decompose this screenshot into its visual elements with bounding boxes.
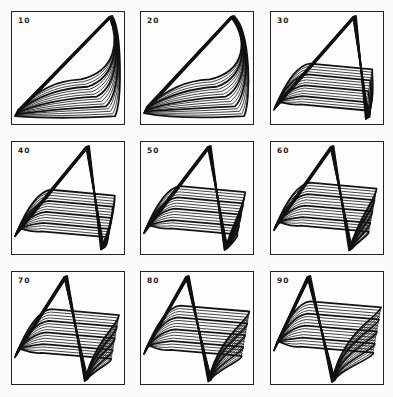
trajectory-bundle — [274, 146, 377, 251]
trajectory-plot — [271, 272, 383, 384]
trajectory-bundle — [15, 276, 119, 381]
phase-plot-panel: 20 — [140, 11, 254, 125]
panel-label: 20 — [147, 16, 159, 25]
trajectory-plot — [271, 142, 383, 254]
trajectory-curve — [18, 147, 108, 248]
panel-label: 60 — [277, 146, 289, 155]
trajectory-bundle — [144, 276, 249, 382]
panel-label: 50 — [147, 146, 159, 155]
panel-label: 70 — [18, 276, 30, 285]
phase-plot-panel: 70 — [11, 271, 125, 385]
trajectory-curve — [145, 276, 248, 381]
trajectory-bundle — [144, 146, 245, 250]
panel-label: 40 — [18, 146, 30, 155]
trajectory-bundle — [144, 16, 249, 117]
panel-label: 10 — [18, 16, 30, 25]
trajectory-plot — [141, 142, 253, 254]
trajectory-curve — [147, 147, 238, 248]
trajectory-bundle — [274, 276, 381, 382]
trajectory-bundle — [274, 16, 373, 119]
phase-plot-panel: 10 — [11, 11, 125, 125]
panel-label: 80 — [147, 276, 159, 285]
trajectory-plot — [271, 12, 383, 124]
trajectory-plot — [12, 12, 124, 124]
phase-plot-panel: 30 — [270, 11, 384, 125]
phase-plot-panel: 60 — [270, 141, 384, 255]
trajectory-plot — [141, 272, 253, 384]
trajectory-bundle — [15, 16, 120, 118]
phase-plot-panel: 50 — [140, 141, 254, 255]
panel-label: 90 — [277, 276, 289, 285]
trajectory-plot — [12, 142, 124, 254]
trajectory-plot — [12, 272, 124, 384]
panel-label: 30 — [277, 16, 289, 25]
phase-plot-panel: 80 — [140, 271, 254, 385]
trajectory-bundle — [15, 146, 115, 250]
phase-plot-panel: 90 — [270, 271, 384, 385]
trajectory-plot — [141, 12, 253, 124]
phase-plot-panel: 40 — [11, 141, 125, 255]
